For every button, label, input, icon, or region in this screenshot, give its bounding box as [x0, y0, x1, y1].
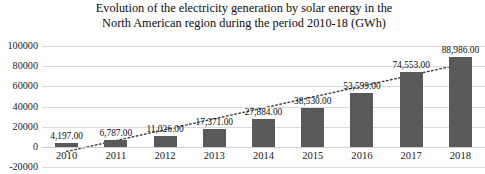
bar-2010: [55, 143, 78, 147]
bar-2018: [449, 57, 472, 147]
y-axis-tick-label: -20000: [0, 162, 38, 172]
x-axis-label-2018: 2018: [424, 151, 485, 162]
data-label-2014: 27,884.00: [228, 108, 300, 117]
bar-2013: [203, 129, 226, 147]
data-label-2017: 74,553.00: [375, 61, 447, 70]
bar-2015: [301, 108, 324, 147]
data-label-2015: 38,530.00: [277, 97, 349, 106]
data-label-2013: 17,371.00: [178, 118, 250, 127]
bar-2017: [400, 72, 423, 147]
data-label-2016: 53,599.00: [326, 82, 398, 91]
y-axis-tick-label: 80000: [0, 61, 38, 71]
bar-2011: [104, 140, 127, 147]
chart-title: Evolution of the electricity generation …: [48, 1, 440, 30]
y-axis-tick-label: 40000: [0, 101, 38, 111]
bar-2014: [252, 119, 275, 147]
bar-2016: [350, 93, 373, 147]
data-label-2018: 88,986.00: [424, 46, 485, 55]
y-axis-tick-label: 20000: [0, 122, 38, 132]
gridline-100000: [42, 46, 485, 47]
gridline-0: [42, 147, 485, 148]
solar-generation-bar-chart: Evolution of the electricity generation …: [0, 0, 485, 174]
bar-2012: [154, 136, 177, 147]
y-axis-tick-label: 100000: [0, 41, 38, 51]
gridline--20000: [42, 167, 485, 168]
y-axis-tick-label: 60000: [0, 81, 38, 91]
